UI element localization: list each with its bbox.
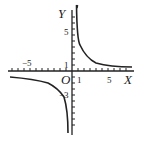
tick-label-x-neg5: −5	[22, 58, 32, 68]
curve-branch-upper-right	[77, 5, 133, 67]
tick-label-y-1: 1	[64, 60, 69, 70]
tick-label-y-5: 5	[64, 27, 69, 37]
tick-label-x-1: 1	[77, 75, 82, 85]
origin-label: O	[61, 72, 71, 87]
hyperbola-graph: Y X O −5 1 5 5 1 −3	[0, 0, 144, 147]
tick-label-y-neg3: −3	[59, 90, 69, 100]
curve-branch-lower-left	[10, 77, 68, 133]
y-axis-label: Y	[58, 6, 67, 21]
x-axis-label: X	[123, 72, 133, 87]
tick-label-x-5: 5	[107, 75, 112, 85]
